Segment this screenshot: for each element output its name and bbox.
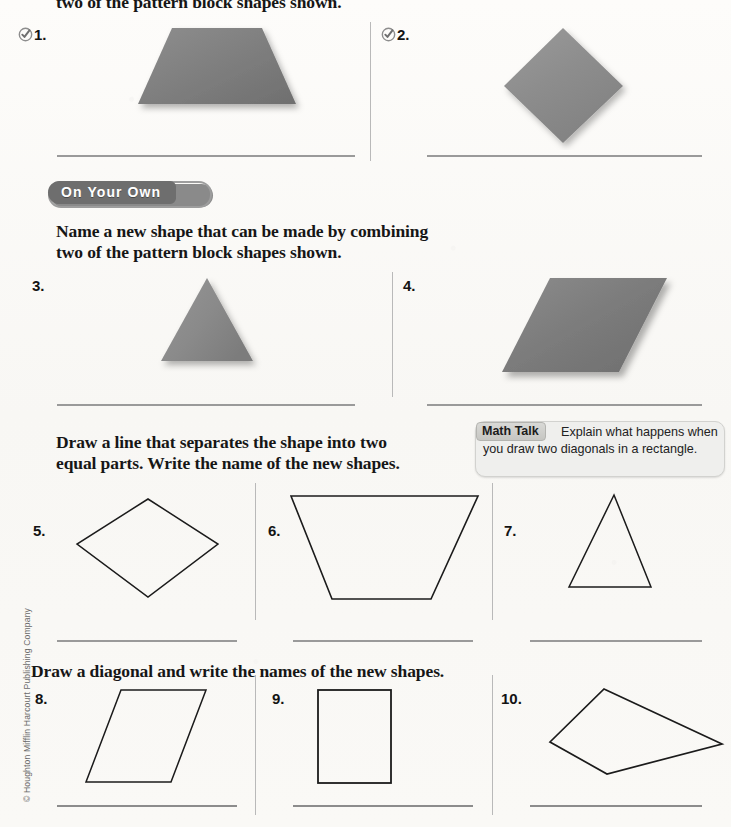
worksheet-page: two of the pattern block shapes shown. 1… <box>0 0 731 827</box>
column-divider-diag-2 <box>492 675 493 815</box>
problem-8-number: 8. <box>35 690 48 707</box>
check-circle-icon <box>381 27 396 42</box>
shape-trapezoid-outline <box>285 487 485 611</box>
separate-instruction-line-2: equal parts. Write the name of the new s… <box>56 453 400 474</box>
separate-instruction-line-1: Draw a line that separates the shape int… <box>56 432 387 453</box>
on-your-own-banner: On Your Own <box>48 181 213 207</box>
column-divider-top <box>370 22 371 161</box>
column-divider-sep-2 <box>492 483 493 620</box>
shape-triangle-shaded <box>155 272 271 382</box>
top-cut-instruction: two of the pattern block shapes shown. <box>56 0 576 13</box>
banner-label: On Your Own <box>61 184 161 200</box>
answer-line-3[interactable] <box>57 404 355 406</box>
answer-line-10[interactable] <box>530 805 702 807</box>
column-divider-diag-1 <box>255 675 256 815</box>
problem-3-number: 3. <box>32 277 45 294</box>
answer-line-2[interactable] <box>427 155 702 157</box>
column-divider-oyo <box>392 272 393 397</box>
problem-number: 1. <box>34 26 47 43</box>
problem-7-number: 7. <box>504 522 517 539</box>
shape-trapezoid-shaded <box>128 22 324 118</box>
answer-line-4[interactable] <box>427 404 702 406</box>
problem-1-label: 1. <box>18 26 47 44</box>
column-divider-sep-1 <box>255 483 256 620</box>
shape-square-outline <box>310 682 420 794</box>
answer-line-6[interactable] <box>293 640 473 642</box>
answer-line-5[interactable] <box>57 640 237 642</box>
shape-kite-outline <box>522 676 731 786</box>
problem-2-label: 2. <box>381 26 410 44</box>
answer-line-8[interactable] <box>57 805 237 807</box>
problem-5-number: 5. <box>33 522 46 539</box>
answer-line-9[interactable] <box>293 805 473 807</box>
shape-parallelogram-outline <box>80 682 220 794</box>
oyo-instruction-line-1: Name a new shape that can be made by com… <box>56 221 428 242</box>
math-talk-callout: Explain what happens when you draw two d… <box>475 421 725 477</box>
shape-parallelogram-shaded <box>495 272 685 390</box>
oyo-instruction-line-2: two of the pattern block shapes shown. <box>56 242 341 263</box>
answer-line-1[interactable] <box>57 155 355 157</box>
problem-6-number: 6. <box>268 522 281 539</box>
math-talk-label: Math Talk <box>476 422 546 441</box>
problem-4-number: 4. <box>403 277 416 294</box>
diagonal-instruction: Draw a diagonal and write the names of t… <box>31 661 444 682</box>
copyright-notice: © Houghton Mifflin Harcourt Publishing C… <box>22 590 32 820</box>
shape-rhombus-shaded <box>492 22 642 150</box>
shape-triangle-outline <box>555 487 685 607</box>
problem-10-number: 10. <box>501 690 522 707</box>
check-circle-icon <box>18 27 33 42</box>
problem-9-number: 9. <box>272 690 285 707</box>
answer-line-7[interactable] <box>530 640 702 642</box>
problem-number: 2. <box>397 26 410 43</box>
shape-rhombus-outline <box>68 487 233 607</box>
